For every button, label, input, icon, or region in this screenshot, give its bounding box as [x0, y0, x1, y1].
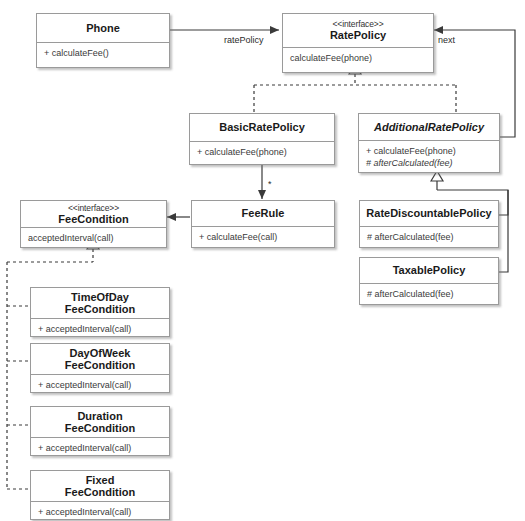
class-members-ratediscountablepolicy: # afterCalculated(fee)	[360, 226, 498, 249]
class-member: + calculateFee(call)	[199, 231, 328, 243]
class-member: calculateFee(phone)	[290, 52, 427, 64]
class-header-taxablepolicy: TaxablePolicy	[360, 258, 498, 283]
class-member: + acceptedInterval(call)	[38, 506, 163, 518]
class-title-basicratepolicy: BasicRatePolicy	[219, 121, 305, 134]
edge-label-feerule-multiplicity: *	[268, 179, 272, 189]
class-title-feerule: FeeRule	[242, 207, 285, 220]
class-box-feecondition[interactable]: <<interface>> FeeCondition acceptedInter…	[20, 200, 167, 248]
class-member: + calculateFee(phone)	[197, 146, 328, 158]
class-member: # afterCalculated(fee)	[367, 231, 492, 243]
class-members-basicratepolicy: + calculateFee(phone)	[190, 141, 334, 165]
class-header-feecondition: <<interface>> FeeCondition	[21, 201, 166, 227]
class-header-ratepolicy: <<interface>> RatePolicy	[283, 14, 433, 47]
class-header-phone: Phone	[37, 14, 169, 42]
class-box-taxablepolicy[interactable]: TaxablePolicy # afterCalculated(fee)	[359, 257, 499, 305]
class-box-phone[interactable]: Phone + calculateFee()	[36, 13, 170, 68]
class-members-ratepolicy: calculateFee(phone)	[283, 47, 433, 73]
class-member: + acceptedInterval(call)	[38, 379, 163, 391]
class-title-durationfeecondition: Duration FeeCondition	[65, 410, 135, 435]
class-title-dayofweekfeecondition: DayOfWeek FeeCondition	[65, 347, 135, 372]
class-members-durationfeecondition: + acceptedInterval(call)	[31, 437, 169, 457]
class-box-basicratepolicy[interactable]: BasicRatePolicy + calculateFee(phone)	[189, 113, 335, 165]
class-header-ratediscountablepolicy: RateDiscountablePolicy	[360, 201, 498, 226]
class-header-basicratepolicy: BasicRatePolicy	[190, 114, 334, 141]
class-members-additionalratepolicy: + calculateFee(phone) # afterCalculated(…	[359, 140, 499, 173]
class-members-dayofweekfeecondition: + acceptedInterval(call)	[31, 374, 169, 394]
class-member: + acceptedInterval(call)	[38, 442, 163, 454]
class-box-fixedfeecondition[interactable]: Fixed FeeCondition + acceptedInterval(ca…	[30, 470, 170, 520]
class-title-ratediscountablepolicy: RateDiscountablePolicy	[366, 207, 491, 220]
class-stereotype-ratepolicy: <<interface>>	[332, 19, 383, 29]
class-box-ratepolicy[interactable]: <<interface>> RatePolicy calculateFee(ph…	[282, 13, 434, 73]
class-header-timeofdayfeecondition: TimeOfDay FeeCondition	[31, 288, 169, 318]
class-members-feerule: + calculateFee(call)	[192, 226, 334, 249]
class-member: # afterCalculated(fee)	[366, 157, 493, 169]
class-members-taxablepolicy: # afterCalculated(fee)	[360, 283, 498, 306]
class-member: + calculateFee()	[44, 47, 163, 59]
uml-class-diagram-canvas: Phone + calculateFee() <<interface>> Rat…	[0, 0, 525, 521]
class-title-feecondition: FeeCondition	[58, 213, 128, 226]
class-members-feecondition: acceptedInterval(call)	[21, 227, 166, 249]
class-header-additionalratepolicy: AdditionalRatePolicy	[359, 114, 499, 140]
edge-label-next: next	[438, 35, 455, 45]
class-members-fixedfeecondition: + acceptedInterval(call)	[31, 501, 169, 521]
class-member: + calculateFee(phone)	[366, 145, 493, 157]
class-title-phone: Phone	[86, 22, 120, 35]
class-member: + acceptedInterval(call)	[38, 323, 163, 335]
class-box-timeofdayfeecondition[interactable]: TimeOfDay FeeCondition + acceptedInterva…	[30, 287, 170, 337]
class-box-durationfeecondition[interactable]: Duration FeeCondition + acceptedInterval…	[30, 406, 170, 456]
class-member: acceptedInterval(call)	[28, 232, 160, 244]
class-header-feerule: FeeRule	[192, 201, 334, 226]
class-title-fixedfeecondition: Fixed FeeCondition	[65, 474, 135, 499]
class-header-dayofweekfeecondition: DayOfWeek FeeCondition	[31, 344, 169, 374]
class-header-fixedfeecondition: Fixed FeeCondition	[31, 471, 169, 501]
class-box-feerule[interactable]: FeeRule + calculateFee(call)	[191, 200, 335, 248]
edge-label-ratepolicy: ratePolicy	[224, 35, 264, 45]
class-member: # afterCalculated(fee)	[367, 288, 492, 300]
class-title-ratepolicy: RatePolicy	[330, 29, 386, 42]
class-box-dayofweekfeecondition[interactable]: DayOfWeek FeeCondition + acceptedInterva…	[30, 343, 170, 393]
class-title-timeofdayfeecondition: TimeOfDay FeeCondition	[65, 291, 135, 316]
class-members-phone: + calculateFee()	[37, 42, 169, 68]
class-box-ratediscountablepolicy[interactable]: RateDiscountablePolicy # afterCalculated…	[359, 200, 499, 248]
class-title-taxablepolicy: TaxablePolicy	[393, 264, 466, 277]
class-title-additionalratepolicy: AdditionalRatePolicy	[374, 121, 484, 134]
class-members-timeofdayfeecondition: + acceptedInterval(call)	[31, 318, 169, 338]
class-header-durationfeecondition: Duration FeeCondition	[31, 407, 169, 437]
class-box-additionalratepolicy[interactable]: AdditionalRatePolicy + calculateFee(phon…	[358, 113, 500, 173]
class-stereotype-feecondition: <<interface>>	[68, 203, 119, 213]
